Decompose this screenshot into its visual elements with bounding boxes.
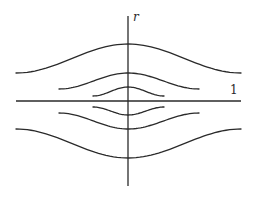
vertical-axis-label: r (133, 11, 139, 23)
horizontal-line-label: 1 (230, 84, 238, 96)
curve-family-diagram (0, 0, 254, 197)
